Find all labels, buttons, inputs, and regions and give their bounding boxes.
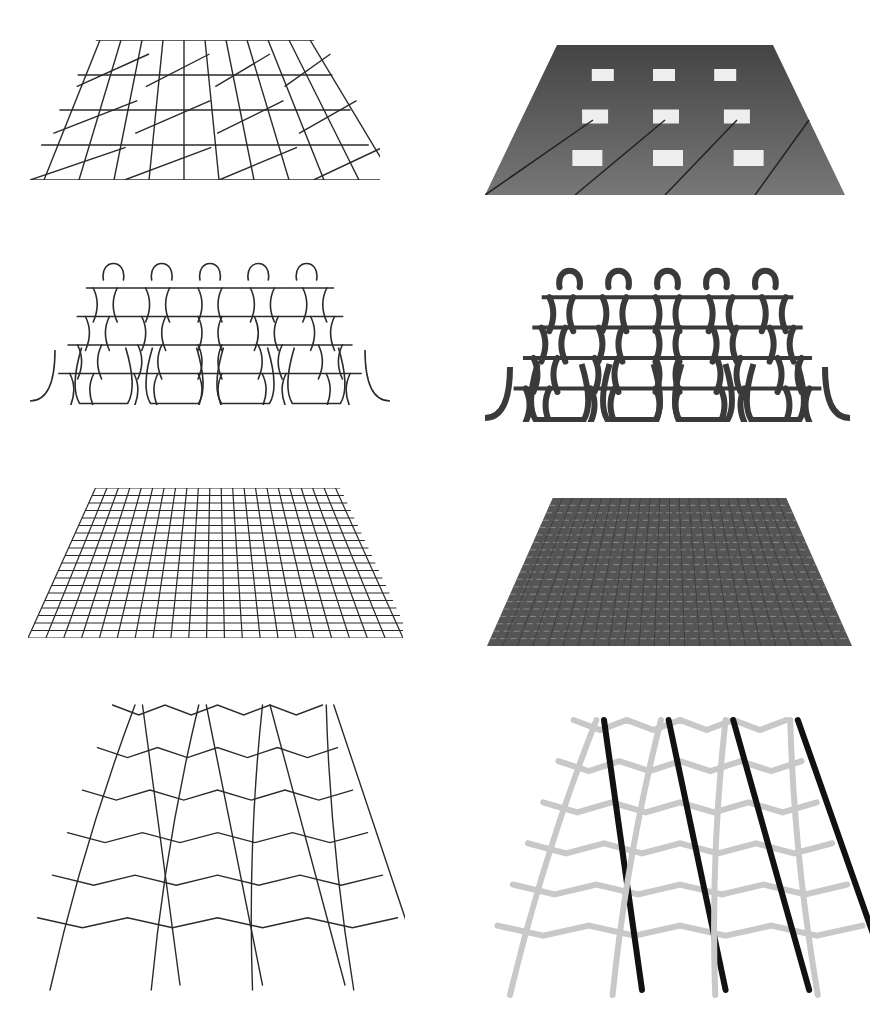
- plain-weave-rendered-illustration: [487, 498, 852, 646]
- plain-render-panel: [487, 498, 852, 646]
- leno-render-panel: [490, 710, 870, 1000]
- plain-weave-wireframe-illustration: [28, 488, 403, 638]
- woven-render-panel: [485, 45, 845, 195]
- twisted-net-wireframe-illustration: [30, 695, 405, 995]
- twisted-net-rendered-illustration: [490, 710, 870, 1000]
- knit-render-panel: [485, 262, 850, 422]
- weft-knit-wireframe-illustration: [30, 255, 390, 405]
- knit-wire-panel: [30, 255, 390, 405]
- plain-wire-panel: [28, 488, 403, 638]
- woven-diagonal-wireframe-illustration: [30, 40, 380, 180]
- weft-knit-rendered-illustration: [485, 262, 850, 422]
- woven-diagonal-rendered-illustration: [485, 45, 845, 195]
- woven-wire-panel: [30, 40, 380, 180]
- leno-wire-panel: [30, 695, 405, 995]
